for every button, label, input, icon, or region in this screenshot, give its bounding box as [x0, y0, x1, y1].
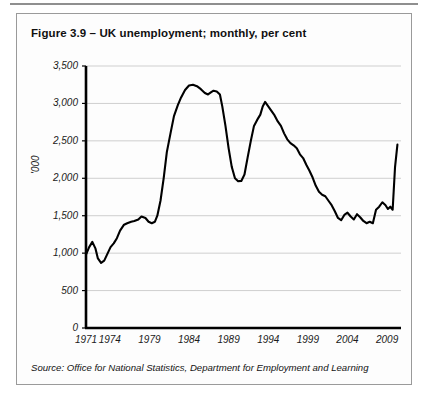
x-tick-label: 2009	[367, 334, 407, 345]
page-top-rule	[10, 3, 418, 5]
x-tick-label: 1979	[129, 334, 169, 345]
x-tick-label: 1974	[90, 334, 130, 345]
y-tick-label: 1,000	[34, 247, 78, 258]
figure-box: Figure 3.9 – UK unemployment; monthly, p…	[16, 13, 412, 385]
y-tick-label: 1,500	[34, 210, 78, 221]
x-tick-label: 1999	[288, 334, 328, 345]
page-root: Figure 3.9 – UK unemployment; monthly, p…	[0, 0, 427, 403]
x-tick-label: 1989	[209, 334, 249, 345]
source-note: Source: Office for National Statistics, …	[31, 362, 369, 373]
y-tick-label: 2,500	[34, 135, 78, 146]
y-tick-label: 3,000	[34, 97, 78, 108]
y-tick-label: 500	[34, 285, 78, 296]
chart-area: '000 05001,0001,5002,0002,5003,0003,500 …	[17, 14, 413, 386]
y-tick-label: 2,000	[34, 172, 78, 183]
y-tick-label: 3,500	[34, 60, 78, 71]
x-tick-label: 1984	[169, 334, 209, 345]
y-tick-label: 0	[34, 322, 78, 333]
x-tick-label: 2004	[327, 334, 367, 345]
x-tick-label: 1994	[248, 334, 288, 345]
unemployment-line-series	[86, 85, 397, 263]
